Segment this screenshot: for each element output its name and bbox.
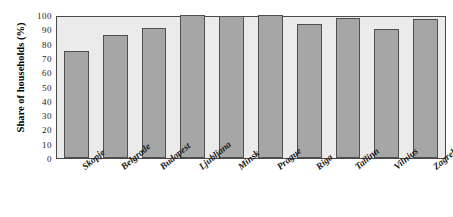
bar-vilnius[interactable] <box>374 29 399 158</box>
bar-tallinn[interactable] <box>336 18 361 158</box>
x-axis-tick-labels: SkopjeBelgradeBudapestLjubljanaMinskPrag… <box>56 160 446 217</box>
x-tick-label-budapest: Budapest <box>158 164 164 172</box>
y-tick-label: 40 <box>26 98 52 107</box>
bar-riga[interactable] <box>297 24 322 158</box>
bar-slot <box>251 17 290 158</box>
bar-zagreb[interactable] <box>413 19 438 158</box>
bar-budapest[interactable] <box>142 28 167 158</box>
bar-slot <box>329 17 368 158</box>
bar-slot <box>367 17 406 158</box>
y-tick-label: 100 <box>26 12 52 21</box>
bar-skopje[interactable] <box>64 51 89 158</box>
bar-belgrade[interactable] <box>103 35 128 158</box>
x-tick-label-zagreb: Zagreb <box>431 164 437 172</box>
bar-slot <box>135 17 174 158</box>
x-tick-label-skopje: Skopje <box>80 164 86 172</box>
bar-slot <box>96 17 135 158</box>
bar-slot <box>173 17 212 158</box>
x-tick-label-ljubljana: Ljubljana <box>197 164 203 172</box>
plot-area <box>56 16 446 159</box>
x-tick-label-prague: Prague <box>275 164 281 172</box>
bar-prague[interactable] <box>258 15 283 158</box>
bars-layer <box>57 17 445 158</box>
x-tick-label-tallinn: Tallinn <box>353 164 359 172</box>
y-tick-label: 50 <box>26 84 52 93</box>
y-tick-label: 90 <box>26 26 52 35</box>
y-axis-title: Share of households (%) <box>15 3 26 153</box>
bar-chart-figure: Share of households (%) 1009080706050403… <box>0 0 453 217</box>
y-tick-label: 30 <box>26 112 52 121</box>
y-tick-label: 70 <box>26 55 52 64</box>
x-tick-label-vilnius: Vilnius <box>392 164 398 172</box>
y-tick-label: 20 <box>26 126 52 135</box>
y-tick-label: 0 <box>26 155 52 164</box>
bar-minsk[interactable] <box>219 16 244 158</box>
bar-slot <box>212 17 251 158</box>
y-tick-label: 80 <box>26 41 52 50</box>
y-tick-label: 60 <box>26 69 52 78</box>
x-tick-label-belgrade: Belgrade <box>119 164 125 172</box>
bar-slot <box>290 17 329 158</box>
bar-slot <box>406 17 445 158</box>
x-tick-label-riga: Riga <box>314 164 320 172</box>
x-tick-label-minsk: Minsk <box>236 164 242 172</box>
y-tick-label: 10 <box>26 141 52 150</box>
bar-ljubljana[interactable] <box>180 15 205 158</box>
bar-slot <box>57 17 96 158</box>
y-axis-tick-labels: 1009080706050403020100 <box>26 10 52 162</box>
